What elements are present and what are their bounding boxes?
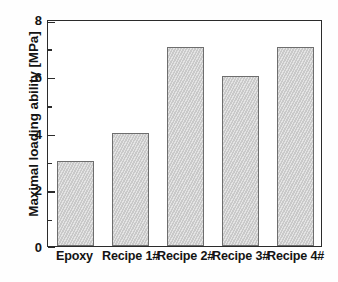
y-axis-tick-labels: 02468 xyxy=(24,20,42,247)
x-axis-tick-label: Epoxy xyxy=(47,249,102,263)
y-axis-major-tick xyxy=(48,135,55,137)
x-axis-tick-label: Recipe 3# xyxy=(212,249,267,263)
bar xyxy=(222,76,259,246)
y-axis-tick-label: 6 xyxy=(26,69,42,84)
plot-area xyxy=(47,20,322,247)
y-axis-minor-tick xyxy=(48,49,52,51)
bar xyxy=(112,133,149,247)
y-axis-minor-tick xyxy=(48,163,52,165)
x-axis-tick-label: Recipe 1# xyxy=(102,249,157,263)
y-axis-tick-label: 0 xyxy=(26,240,42,255)
y-axis-major-tick xyxy=(48,191,55,193)
bar-chart: Maximal loading ability [MPa] 02468 Epox… xyxy=(0,0,338,282)
bar xyxy=(277,47,314,246)
x-axis-tick-label: Recipe 4# xyxy=(267,249,322,263)
x-axis-tick-labels: EpoxyRecipe 1#Recipe 2#Recipe 3#Recipe 4… xyxy=(47,249,322,271)
x-axis-tick-label: Recipe 2# xyxy=(157,249,212,263)
bar xyxy=(57,161,94,246)
bars-layer xyxy=(48,21,321,246)
y-axis-tick-label: 2 xyxy=(26,183,42,198)
y-axis-major-tick xyxy=(48,22,55,24)
y-axis-tick-label: 4 xyxy=(26,126,42,141)
y-axis-tick-label: 8 xyxy=(26,13,42,28)
y-axis-major-tick xyxy=(48,246,55,248)
y-axis-major-tick xyxy=(48,78,55,80)
y-axis-minor-tick xyxy=(48,220,52,222)
bar xyxy=(167,47,204,246)
y-axis-minor-tick xyxy=(48,106,52,108)
